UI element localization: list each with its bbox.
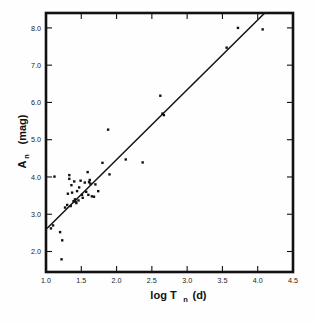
data-point xyxy=(70,184,72,186)
x-tick-label: 2.0 xyxy=(112,276,122,285)
y-tick-label: 8.0 xyxy=(31,24,41,33)
data-point xyxy=(79,179,81,181)
svg-text:(d): (d) xyxy=(192,289,206,301)
data-point xyxy=(159,95,161,97)
data-point xyxy=(59,231,61,233)
data-point xyxy=(101,162,103,164)
data-point xyxy=(64,206,66,208)
y-tick-label: 6.0 xyxy=(31,98,41,107)
data-point xyxy=(261,28,263,30)
data-point xyxy=(225,46,227,48)
data-point xyxy=(50,227,52,229)
data-point xyxy=(93,196,95,198)
data-point xyxy=(87,194,89,196)
data-point xyxy=(85,191,87,193)
data-point xyxy=(52,224,54,226)
y-tick-label: 3.0 xyxy=(31,210,41,219)
regression-line xyxy=(47,13,264,228)
x-tick-label: 2.5 xyxy=(147,276,157,285)
data-point xyxy=(89,179,91,181)
figure-container: 1.01.52.02.53.03.54.04.52.03.04.05.06.07… xyxy=(0,0,315,324)
data-point xyxy=(84,181,86,183)
data-point xyxy=(107,128,109,130)
data-point xyxy=(73,180,75,182)
x-tick-label: 3.5 xyxy=(217,276,227,285)
data-point xyxy=(163,114,165,116)
y-tick-label: 2.0 xyxy=(31,247,41,256)
data-point xyxy=(97,190,99,192)
data-point xyxy=(91,195,93,197)
svg-text:n: n xyxy=(22,154,31,159)
x-tick-label: 1.5 xyxy=(76,276,86,285)
svg-text:(mag): (mag) xyxy=(16,114,28,144)
data-point xyxy=(81,194,83,196)
x-tick-label: 3.0 xyxy=(182,276,192,285)
plot-frame xyxy=(46,13,293,272)
data-point xyxy=(125,158,127,160)
x-tick-label: 1.0 xyxy=(41,276,51,285)
data-point xyxy=(68,174,70,176)
data-point xyxy=(237,27,239,29)
data-point xyxy=(75,202,77,204)
data-points xyxy=(50,27,264,261)
data-point xyxy=(108,173,110,175)
data-point xyxy=(53,175,55,177)
data-point xyxy=(66,204,68,206)
data-point xyxy=(71,191,73,193)
figure-caption xyxy=(6,312,206,321)
y-tick-label: 4.0 xyxy=(31,173,41,182)
data-point xyxy=(81,197,83,199)
data-point xyxy=(60,258,62,260)
data-point xyxy=(86,171,88,173)
svg-text:A: A xyxy=(16,160,28,168)
data-point xyxy=(141,161,143,163)
svg-text:n: n xyxy=(183,295,188,304)
y-tick-label: 5.0 xyxy=(31,135,41,144)
data-point xyxy=(78,186,80,188)
data-point xyxy=(61,239,63,241)
svg-text:log T: log T xyxy=(150,289,177,301)
data-point xyxy=(94,183,96,185)
x-axis-title: log Tn(d) xyxy=(150,289,206,304)
x-tick-label: 4.5 xyxy=(288,276,298,285)
data-point xyxy=(77,199,79,201)
data-point xyxy=(76,190,78,192)
data-point xyxy=(68,178,70,180)
data-point xyxy=(67,193,69,195)
x-tick-label: 4.0 xyxy=(253,276,263,285)
fit-line-layer xyxy=(47,13,264,228)
y-axis-title: An(mag) xyxy=(16,114,31,168)
data-point xyxy=(89,182,91,184)
scatter-plot: 1.01.52.02.53.03.54.04.52.03.04.05.06.07… xyxy=(0,0,315,324)
data-point xyxy=(74,198,76,200)
data-point xyxy=(70,205,72,207)
y-tick-label: 7.0 xyxy=(31,61,41,70)
